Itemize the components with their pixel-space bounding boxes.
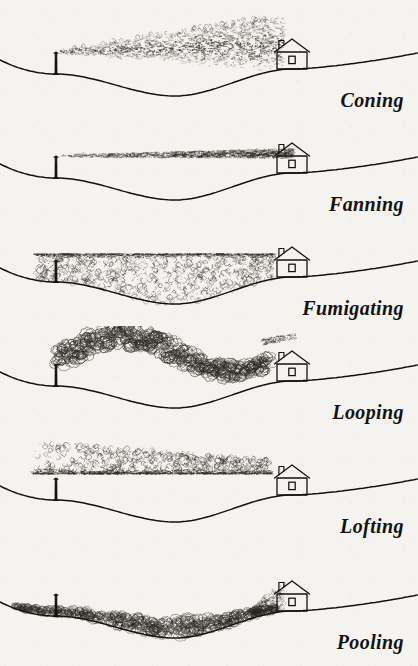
smokestack xyxy=(53,478,58,500)
smoke-plume-fumigating xyxy=(34,253,277,305)
plume-label-looping: Looping xyxy=(332,402,404,422)
plume-label-fumigating: Fumigating xyxy=(302,298,404,318)
smoke-plume-pooling xyxy=(11,582,286,642)
smoke-plume-coning xyxy=(60,16,286,70)
smoke-plume-looping xyxy=(49,326,297,384)
smokestack xyxy=(53,156,58,178)
plume-diagram: ConingFanningFumigatingLoopingLoftingPoo… xyxy=(0,0,418,666)
plume-label-coning: Coning xyxy=(340,90,404,110)
plume-label-fanning: Fanning xyxy=(329,194,404,214)
plume-label-lofting: Lofting xyxy=(340,516,404,536)
smoke-plume-lofting xyxy=(30,442,273,475)
house xyxy=(275,465,310,495)
house xyxy=(275,247,310,277)
smokestack xyxy=(53,52,58,74)
house xyxy=(275,351,310,381)
smoke-plume-fanning xyxy=(61,148,295,159)
plume-label-pooling: Pooling xyxy=(337,632,404,652)
